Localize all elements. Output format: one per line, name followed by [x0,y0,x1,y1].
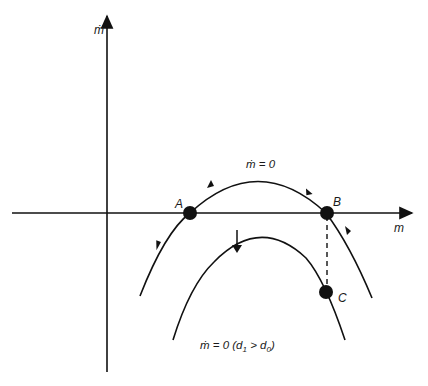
upper-curve-label: ṁ = 0 [246,158,276,170]
y-axis-label: ṁ [94,23,104,37]
arrow-icon-left-up [207,180,214,188]
phase-diagram: ṁ m ṁ = 0 A B C ṁ = 0 (d1 > d0) [0,0,428,386]
point-c [319,285,333,299]
point-a [183,206,197,220]
lower-curve-label: ṁ = 0 (d1 > d0) [200,339,275,354]
point-c-label: C [338,291,347,305]
arrow-icon-right-up [345,226,351,235]
lower-nullcline-curve [173,237,345,340]
point-b-label: B [333,195,341,209]
x-axis-label: m [394,221,404,235]
point-b [320,206,334,220]
point-a-label: A [174,197,183,211]
arrow-icon-left-down [155,240,162,251]
